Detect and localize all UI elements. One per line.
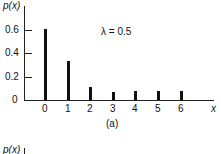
y-axis-label: p(x) xyxy=(3,0,20,11)
y-tick xyxy=(24,77,32,78)
y-tick-label: 0 xyxy=(12,94,18,105)
bar-2 xyxy=(89,87,92,100)
y-axis-b xyxy=(24,148,25,154)
bar-0 xyxy=(44,29,47,100)
lambda-annotation: λ = 0.5 xyxy=(101,26,131,37)
x-tick-label: 6 xyxy=(178,103,184,114)
y-axis-label-b: p(x) xyxy=(3,144,20,154)
x-tick-label: 0 xyxy=(42,103,48,114)
x-axis-label: x xyxy=(211,103,216,114)
y-tick xyxy=(24,30,32,31)
bar-3 xyxy=(112,92,115,100)
bar-6 xyxy=(180,91,183,100)
y-tick xyxy=(24,53,32,54)
bar-5 xyxy=(157,91,160,100)
x-tick-label: 5 xyxy=(155,103,161,114)
x-axis xyxy=(24,100,214,101)
bar-1 xyxy=(67,61,70,100)
y-tick-label: 0.4 xyxy=(5,47,19,58)
chart-caption: (a) xyxy=(106,118,118,129)
y-tick-label: 0.2 xyxy=(5,71,19,82)
x-tick-label: 2 xyxy=(87,103,93,114)
x-tick-label: 4 xyxy=(132,103,138,114)
x-tick-label: 1 xyxy=(65,103,71,114)
x-tick-label: 3 xyxy=(110,103,116,114)
y-tick-label: 0.6 xyxy=(5,24,19,35)
bar-4 xyxy=(134,91,137,100)
